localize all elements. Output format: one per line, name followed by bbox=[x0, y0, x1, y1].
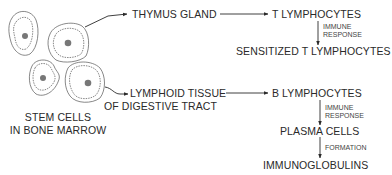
source-label-line2: IN BONE MARROW bbox=[4, 124, 112, 136]
b-immune-response-line1: IMMUNE bbox=[325, 104, 353, 112]
t-lymphocytes-label: T LYMPHOCYTES bbox=[272, 8, 361, 20]
thymus-gland-label: THYMUS GLAND bbox=[132, 8, 217, 20]
lymphoid-tissue-label-line2: OF DIGESTIVE TRACT bbox=[104, 100, 217, 112]
b-lymphocytes-label: B LYMPHOCYTES bbox=[272, 87, 362, 99]
t-immune-response-line1: IMMUNE bbox=[323, 23, 351, 31]
stem-cell-1 bbox=[9, 11, 38, 55]
t-immune-response-line2: RESPONSE bbox=[323, 31, 362, 39]
source-label-line1: STEM CELLS bbox=[20, 111, 96, 123]
sensitized-t-lymphocytes-label: SENSITIZED T LYMPHOCYTES bbox=[236, 45, 391, 57]
b-immune-response-line2: RESPONSE bbox=[325, 112, 364, 120]
arrow-to-thymus bbox=[85, 14, 127, 27]
lymphoid-tissue-label-line1: LYMPHOID TISSUE bbox=[130, 87, 226, 99]
stem-cell-3 bbox=[29, 60, 59, 95]
arrow-to-lymphoid bbox=[105, 87, 128, 94]
stem-cell-4 bbox=[65, 62, 104, 102]
immunoglobulins-label: IMMUNOGLOBULINS bbox=[263, 159, 368, 171]
formation-label: FORMATION bbox=[325, 144, 366, 152]
stem-cell-2 bbox=[48, 23, 89, 62]
plasma-cells-label: PLASMA CELLS bbox=[280, 125, 359, 137]
